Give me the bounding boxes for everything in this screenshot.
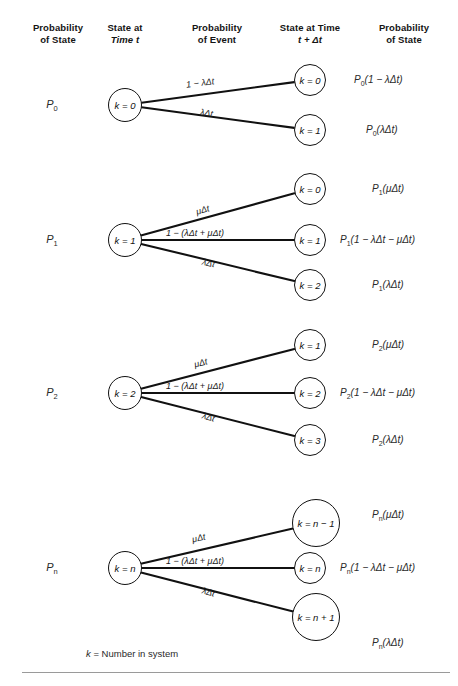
p-symbol: P bbox=[46, 561, 53, 573]
edge-label-g2-b1: μΔt bbox=[195, 203, 211, 216]
target-node-g2-b2[interactable]: k = 1 bbox=[294, 224, 326, 256]
p-expression: (λΔt) bbox=[377, 124, 398, 135]
state-probability-label-group-2: P1 bbox=[32, 233, 72, 248]
p-symbol: P bbox=[354, 74, 361, 85]
p-expression: (λΔt) bbox=[383, 279, 404, 290]
result-probability-g2-b2: P1(1 − λΔt − μΔt) bbox=[340, 234, 415, 247]
p-symbol: P bbox=[340, 387, 347, 398]
edge-label-g4-b3: λΔt bbox=[201, 586, 216, 599]
edge-label-g3-b1: μΔt bbox=[193, 356, 209, 369]
source-node-group-1[interactable]: k = 0 bbox=[108, 88, 142, 122]
result-probability-g3-b3: P2(λΔt) bbox=[372, 434, 404, 447]
column-header-probability-of-state-right: Probability of State bbox=[358, 22, 450, 46]
result-probability-g3-b2: P2(1 − λΔt − μΔt) bbox=[340, 387, 415, 400]
edge-label-g1-b1: 1 − λΔt bbox=[185, 76, 214, 90]
target-node-g4-b2[interactable]: k = n bbox=[294, 552, 326, 584]
source-node-group-4[interactable]: k = n bbox=[108, 551, 142, 585]
p-symbol: P bbox=[372, 339, 379, 350]
p-expression: (λΔt) bbox=[383, 637, 404, 648]
p-symbol: P bbox=[372, 509, 379, 520]
result-probability-g4-b2: Pn(1 − λΔt − μΔt) bbox=[340, 562, 415, 575]
p-expression: (1 − λΔt) bbox=[365, 74, 403, 85]
bottom-divider bbox=[22, 672, 450, 673]
p-expression: (μΔt) bbox=[383, 183, 405, 194]
header-line-2: of State bbox=[358, 34, 450, 46]
p-expression: (1 − λΔt − μΔt) bbox=[351, 562, 415, 573]
figure-footnote: k = Number in system bbox=[86, 648, 178, 659]
p-expression: (μΔt) bbox=[383, 339, 405, 350]
p-subscript: 0 bbox=[54, 104, 58, 113]
target-node-g3-b3[interactable]: k = 3 bbox=[294, 424, 326, 456]
edge-label-g4-b2: 1 − (λΔt + μΔt) bbox=[166, 556, 224, 566]
result-probability-g3-b1: P2(μΔt) bbox=[372, 339, 404, 352]
p-subscript: 2 bbox=[54, 392, 58, 401]
edge-g2-b3 bbox=[141, 244, 294, 281]
result-probability-g4-b3: Pn(λΔt) bbox=[372, 637, 404, 650]
state-probability-label-group-4: Pn bbox=[32, 561, 72, 576]
edge-label-g4-b1: μΔt bbox=[191, 532, 206, 545]
result-probability-g4-b1: Pn(μΔt) bbox=[372, 509, 404, 522]
column-header-probability-of-event: Probability of Event bbox=[168, 22, 266, 46]
column-header-state-at-time-t: State at Time t bbox=[84, 22, 166, 46]
source-node-group-3[interactable]: k = 2 bbox=[108, 376, 142, 410]
p-expression: (λΔt) bbox=[383, 434, 404, 445]
figure-canvas: Probability of State State at Time t Pro… bbox=[0, 0, 458, 686]
edge-g1-b2 bbox=[142, 107, 295, 128]
p-symbol: P bbox=[372, 637, 379, 648]
p-symbol: P bbox=[340, 234, 347, 245]
target-node-g3-b2[interactable]: k = 2 bbox=[294, 377, 326, 409]
p-subscript: 1 bbox=[54, 239, 58, 248]
p-symbol: P bbox=[366, 124, 373, 135]
header-line-1: Probability bbox=[379, 22, 429, 33]
edge-g1-b1 bbox=[142, 82, 295, 103]
p-symbol: P bbox=[372, 434, 379, 445]
header-line-1: Probability bbox=[33, 22, 83, 33]
footnote-symbol: k bbox=[86, 648, 91, 659]
header-line-1: Probability bbox=[192, 22, 242, 33]
edge-g3-b3 bbox=[141, 397, 294, 436]
p-expression: (1 − λΔt − μΔt) bbox=[351, 234, 415, 245]
header-line-2: of Event bbox=[168, 34, 266, 46]
result-probability-g2-b1: P1(μΔt) bbox=[372, 183, 404, 196]
p-symbol: P bbox=[372, 279, 379, 290]
target-node-g3-b1[interactable]: k = 1 bbox=[294, 329, 326, 361]
target-node-g2-b3[interactable]: k = 2 bbox=[294, 269, 326, 301]
p-symbol: P bbox=[372, 183, 379, 194]
footnote-text: = Number in system bbox=[93, 648, 178, 659]
p-symbol: P bbox=[46, 233, 53, 245]
p-symbol: P bbox=[340, 562, 347, 573]
p-expression: (μΔt) bbox=[383, 509, 405, 520]
state-probability-label-group-3: P2 bbox=[32, 386, 72, 401]
edge-label-g2-b2: 1 − (λΔt + μΔt) bbox=[166, 228, 224, 238]
edge-label-g3-b3: λΔt bbox=[201, 411, 216, 424]
target-node-g1-b2[interactable]: k = 1 bbox=[294, 114, 326, 146]
header-line-1: State at bbox=[107, 22, 142, 33]
target-node-g4-b3[interactable]: k = n + 1 bbox=[292, 593, 340, 641]
result-probability-g1-b2: P0(λΔt) bbox=[366, 124, 398, 137]
target-node-g4-b1[interactable]: k = n − 1 bbox=[292, 499, 340, 547]
p-expression: (1 − λΔt − μΔt) bbox=[351, 387, 415, 398]
header-line-2: Time t bbox=[84, 34, 166, 46]
header-line-2: t + Δt bbox=[262, 34, 358, 46]
result-probability-g1-b1: P0(1 − λΔt) bbox=[354, 74, 403, 87]
state-probability-label-group-1: P0 bbox=[32, 98, 72, 113]
target-node-g1-b1[interactable]: k = 0 bbox=[294, 64, 326, 96]
edge-label-g3-b2: 1 − (λΔt + μΔt) bbox=[166, 381, 224, 391]
edge-g4-b3 bbox=[141, 573, 293, 612]
p-symbol: P bbox=[46, 98, 53, 110]
header-line-1: State at Time bbox=[280, 22, 340, 33]
edge-label-g1-b2: λΔt bbox=[199, 107, 213, 119]
column-header-state-at-time-t-plus-delta-t: State at Time t + Δt bbox=[262, 22, 358, 46]
result-probability-g2-b3: P1(λΔt) bbox=[372, 279, 404, 292]
source-node-group-2[interactable]: k = 1 bbox=[108, 223, 142, 257]
edge-label-g2-b3: λΔt bbox=[201, 257, 216, 270]
p-symbol: P bbox=[46, 386, 53, 398]
p-subscript: n bbox=[54, 567, 58, 576]
target-node-g2-b1[interactable]: k = 0 bbox=[294, 173, 326, 205]
